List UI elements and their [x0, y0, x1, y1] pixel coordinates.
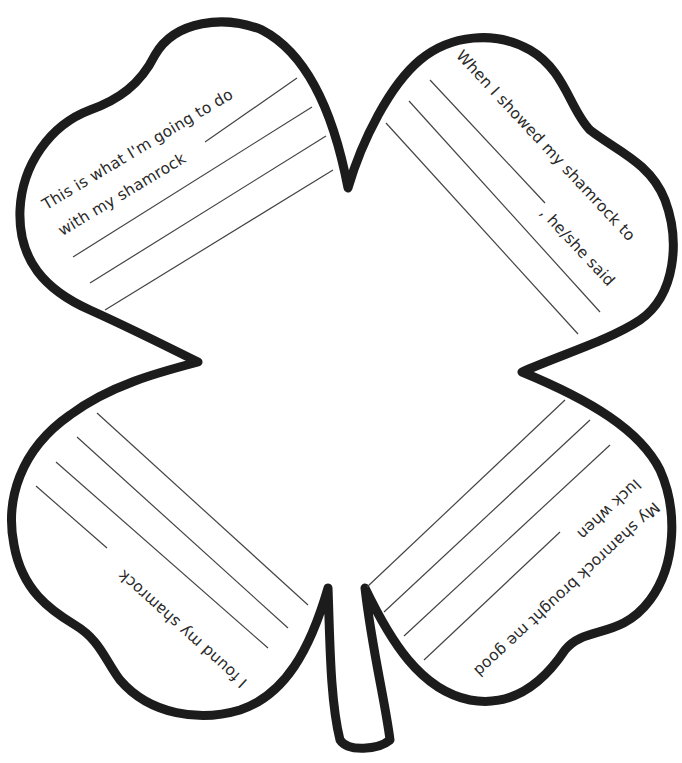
shamrock-worksheet: This is what I'm going to do with my sha…: [0, 0, 682, 763]
shamrock-outline: [0, 0, 682, 763]
shamrock-shape: [12, 22, 674, 748]
